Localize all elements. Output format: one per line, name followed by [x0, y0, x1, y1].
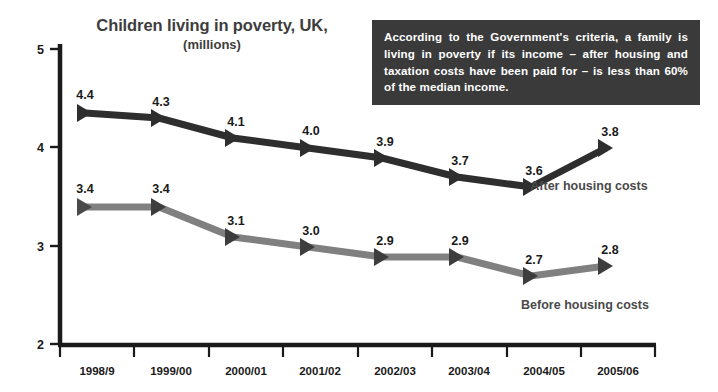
- x-tick-label: 1999/00: [150, 365, 192, 377]
- series-label-after-housing-costs: After housing costs: [530, 179, 647, 193]
- poverty-line-chart: Children living in poverty, UK, (million…: [0, 0, 718, 392]
- series-after-point-labels: 4.4 4.3 4.1 4.0 3.9 3.7 3.6 3.8: [76, 88, 618, 178]
- data-label: 3.8: [601, 125, 618, 139]
- data-label: 3.6: [525, 164, 542, 178]
- series-after-housing-costs: 4.4 4.3 4.1 4.0 3.9 3.7 3.6 3.8 After ho…: [76, 88, 647, 196]
- x-axis-category-labels: 1998/9 1999/00 2000/01 2001/02 2002/03 2…: [79, 365, 638, 377]
- data-label: 4.3: [152, 95, 169, 109]
- series-label-before-housing-costs: Before housing costs: [521, 298, 649, 312]
- x-tick-label: 1998/9: [79, 365, 114, 377]
- data-label: 3.7: [451, 154, 468, 168]
- data-label: 3.4: [152, 182, 169, 196]
- data-label: 4.1: [227, 115, 244, 129]
- y-tick-label: 3: [37, 240, 44, 254]
- data-label: 3.1: [227, 214, 244, 228]
- x-tick-label: 2004/05: [523, 365, 565, 377]
- y-tick-label: 2: [37, 338, 44, 352]
- data-label: 3.9: [376, 135, 393, 149]
- x-tick-label: 2000/01: [225, 365, 267, 377]
- chart-plot-area: 5 4 3 2 1998/9 1999/00 2000/01 2001/02 2…: [0, 0, 718, 392]
- data-label: 2.9: [451, 234, 468, 248]
- x-tick-label: 2005/06: [597, 365, 639, 377]
- y-tick-label: 5: [37, 43, 44, 57]
- series-before-markers: [77, 198, 613, 285]
- data-label: 2.7: [525, 253, 542, 267]
- y-tick-label: 4: [37, 141, 44, 155]
- data-label: 2.8: [601, 243, 618, 257]
- data-label: 3.4: [76, 182, 93, 196]
- series-before-housing-costs: 3.4 3.4 3.1 3.0 2.9 2.9 2.7 2.8 Before h…: [76, 182, 649, 312]
- data-label: 2.9: [376, 234, 393, 248]
- data-label: 4.4: [76, 88, 93, 102]
- x-tick-label: 2002/03: [374, 365, 416, 377]
- x-tick-label: 2003/04: [448, 365, 490, 377]
- data-label: 4.0: [302, 124, 319, 138]
- y-axis-tick-labels: 5 4 3 2: [37, 43, 44, 352]
- data-label: 3.0: [302, 224, 319, 238]
- x-tick-label: 2001/02: [299, 365, 341, 377]
